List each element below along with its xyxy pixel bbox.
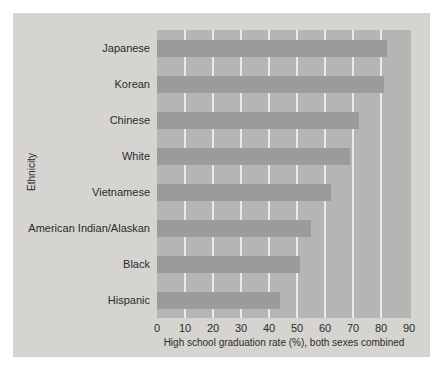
gridline-30 <box>240 30 242 318</box>
bar-hispanic <box>157 292 280 309</box>
x-tick-label-40: 40 <box>263 322 275 334</box>
plot-area <box>157 30 411 318</box>
bar-vietnamese <box>157 184 331 201</box>
x-axis-title: High school graduation rate (%), both se… <box>157 337 411 348</box>
gridline-80 <box>380 30 382 318</box>
x-tick-label-60: 60 <box>319 322 331 334</box>
x-tick-label-90: 90 <box>403 322 415 334</box>
y-axis-title: Ethnicity <box>26 122 40 222</box>
bar-korean <box>157 76 384 93</box>
x-tick-label-70: 70 <box>347 322 359 334</box>
x-tick-label-30: 30 <box>235 322 247 334</box>
x-tick-label-0: 0 <box>154 322 160 334</box>
x-tick-label-80: 80 <box>375 322 387 334</box>
gridline-50 <box>296 30 298 318</box>
gridline-10 <box>184 30 186 318</box>
bar-chinese <box>157 112 359 129</box>
category-label: Black <box>19 246 150 282</box>
x-axis-ticks: 0102030405060708090 <box>157 322 411 336</box>
bar-white <box>157 148 350 165</box>
gridline-20 <box>212 30 214 318</box>
gridline-40 <box>268 30 270 318</box>
gridline-60 <box>324 30 326 318</box>
category-label: Korean <box>19 66 150 102</box>
bar-black <box>157 256 300 273</box>
category-label: Japanese <box>19 30 150 66</box>
x-tick-label-50: 50 <box>291 322 303 334</box>
bar-japanese <box>157 40 387 57</box>
x-tick-label-10: 10 <box>179 322 191 334</box>
bar-american-indian-alaskan <box>157 220 311 237</box>
figure-panel: JapaneseKoreanChineseWhiteVietnameseAmer… <box>13 13 430 357</box>
category-label: Hispanic <box>19 282 150 318</box>
x-tick-label-20: 20 <box>207 322 219 334</box>
gridline-70 <box>352 30 354 318</box>
